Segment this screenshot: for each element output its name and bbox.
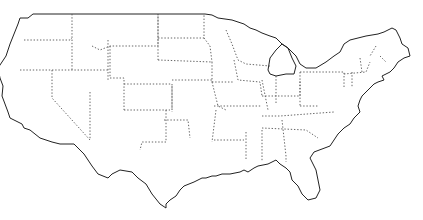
michigan-peninsula [268, 44, 296, 76]
national-outline [0, 14, 410, 208]
state-borders [20, 14, 386, 162]
us-outline-map [0, 0, 423, 220]
